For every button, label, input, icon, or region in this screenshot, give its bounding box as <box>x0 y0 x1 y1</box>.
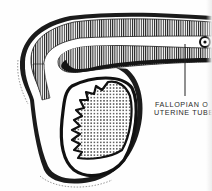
label-uterine-tube: UTERINE TUBE <box>154 109 212 117</box>
anatomy-drawing <box>0 0 212 191</box>
page-edge-shade <box>206 0 212 191</box>
diagram-canvas: FALLOPIAN O UTERINE TUBE <box>0 0 212 191</box>
